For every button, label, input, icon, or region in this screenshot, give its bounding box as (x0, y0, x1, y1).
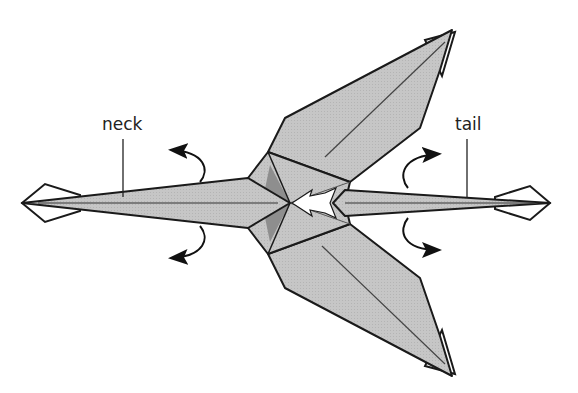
tail-down-arrow-icon (403, 218, 438, 250)
neck (22, 178, 290, 228)
bottom-wing (268, 224, 455, 376)
tail (333, 186, 550, 220)
tail-up-arrow-icon (403, 154, 438, 188)
tail-label: tail (455, 114, 482, 134)
top-wing (268, 30, 455, 182)
neck-down-arrow-icon (172, 226, 205, 258)
neck-up-arrow-icon (172, 150, 205, 182)
neck-label: neck (102, 114, 143, 134)
origami-diagram: neck tail (0, 0, 578, 393)
